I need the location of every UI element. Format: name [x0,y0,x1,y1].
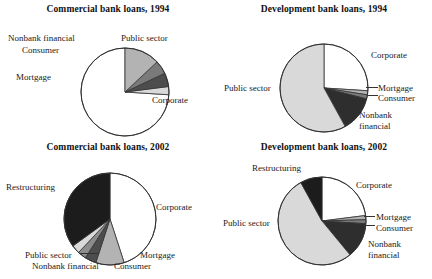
slice-label-corporate: Corporate [371,50,407,61]
slice-label-public-sector: Public sector [223,218,270,229]
slice-label-nonbank-financial-line2: financial [368,250,399,261]
panel-title: Development bank loans, 2002 [216,142,432,152]
slice-label-corporate: Corporate [156,202,192,213]
panel-title: Commercial bank loans, 2002 [0,142,216,152]
slice-label-restructuring: Restructuring [252,163,301,174]
slice-label-nonbank-financial-line1: Nonbank [368,239,401,250]
leader-line-mortgage [366,87,378,88]
slice-label-nonbank-financial-line1: Nonbank [359,110,392,121]
slice-label-mortgage: Mortgage [140,250,175,261]
slice-label-mortgage: Mortgage [376,212,411,223]
slice-label-consumer: Consumer [114,261,151,272]
pie-slice-corporate [324,44,368,91]
slice-label-consumer: Consumer [376,223,413,234]
pie-svg [278,42,370,134]
slice-label-corporate: Corporate [356,180,392,191]
panel-development-1994: Development bank loans, 1994 Public sect… [216,0,432,139]
pie-development-1994 [278,42,370,134]
leader-line-public-sector [80,253,98,254]
panel-title: Development bank loans, 1994 [216,4,432,14]
pie-development-2002 [276,175,368,267]
pie-chart-figure: Commercial bank loans, 1994 Nonbank fina… [0,0,432,279]
slice-label-consumer: Consumer [22,45,59,56]
slice-label-corporate: Corporate [152,95,188,106]
slice-label-restructuring: Restructuring [6,182,55,193]
panel-development-2002: Development bank loans, 2002 Restructuri… [216,140,432,279]
slice-label-nonbank-financial: Nonbank financial [8,33,75,44]
leader-line-consumer [366,225,375,226]
leader-line-mortgage [364,216,375,217]
slice-label-public-sector: Public sector [25,250,72,261]
slice-label-nonbank-financial: Nonbank financial [32,261,99,272]
pie-svg [79,46,171,138]
slice-label-consumer: Consumer [378,93,415,104]
slice-label-public-sector: Public sector [224,83,271,94]
slice-label-public-sector: Public sector [121,33,168,44]
leader-line-consumer [368,95,378,96]
pie-svg [276,175,368,267]
slice-label-mortgage: Mortgage [378,83,413,94]
panel-title: Commercial bank loans, 1994 [0,4,216,14]
panel-commercial-1994: Commercial bank loans, 1994 Nonbank fina… [0,0,216,139]
pie-commercial-1994 [79,46,171,138]
slice-label-mortgage: Mortgage [16,72,51,83]
panel-commercial-2002: Commercial bank loans, 2002 Restructurin… [0,140,216,279]
slice-label-nonbank-financial-line2: financial [359,121,390,132]
